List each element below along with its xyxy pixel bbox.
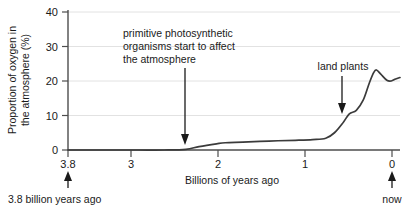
y-axis: 40 30 20 10 0 xyxy=(46,6,68,156)
start-caption: 3.8 billion years ago xyxy=(8,193,102,205)
x-axis-title: Billions of years ago xyxy=(185,174,279,186)
end-caption: now xyxy=(382,193,402,205)
y-tick-label-20: 20 xyxy=(46,75,58,87)
x-tick-label-1: 1 xyxy=(302,158,308,170)
annotation-land-plants-arrow-head-icon xyxy=(338,103,346,114)
y-axis-title-line1: Proportion of oxygen in xyxy=(6,26,18,134)
annotation-primitive-line2: organisms start to affect xyxy=(123,40,235,52)
start-arrow-head-icon xyxy=(64,171,72,181)
x-tick-label-2: 2 xyxy=(215,158,221,170)
annotation-primitive-line1: primitive photosynthetic xyxy=(123,27,233,39)
y-tick-label-40: 40 xyxy=(46,6,58,18)
y-axis-title-line2: the atmosphere (%) xyxy=(19,34,31,126)
axis-end-callout: now xyxy=(382,171,402,205)
x-tick-label-0: 0 xyxy=(389,158,395,170)
axis-start-callout: 3.8 billion years ago xyxy=(8,171,102,205)
y-tick-label-0: 0 xyxy=(52,144,58,156)
y-tick-label-10: 10 xyxy=(46,110,58,122)
oxygen-history-chart: 40 30 20 10 0 Proportion of oxygen in th… xyxy=(0,0,415,211)
annotation-primitive-line3: the atmosphere xyxy=(123,53,196,65)
y-axis-title: Proportion of oxygen in the atmosphere (… xyxy=(6,26,31,134)
end-arrow-head-icon xyxy=(388,171,396,181)
oxygen-curve-main xyxy=(68,70,400,150)
y-tick-label-30: 30 xyxy=(46,41,58,53)
annotation-land-plants-label: land plants xyxy=(318,60,369,72)
x-tick-label-3: 3 xyxy=(128,158,134,170)
x-axis: 3.8 3 2 1 0 Billions of years ago xyxy=(60,150,400,186)
annotation-primitive-arrow-head-icon xyxy=(181,134,189,145)
x-tick-label-3.8: 3.8 xyxy=(60,158,75,170)
chart-svg: 40 30 20 10 0 Proportion of oxygen in th… xyxy=(0,0,415,211)
annotation-primitive-photosynthesis: primitive photosynthetic organisms start… xyxy=(123,27,235,145)
